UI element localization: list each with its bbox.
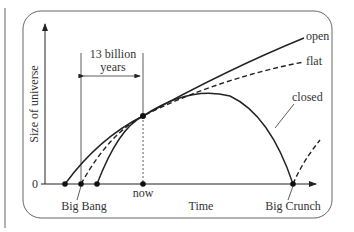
x-axis-label: Time xyxy=(189,199,214,213)
curve-label-closed: closed xyxy=(292,90,323,104)
curve-label-flat: flat xyxy=(306,54,323,68)
closed-leader-line xyxy=(275,104,294,128)
span-label-line1: 13 billion xyxy=(90,47,136,61)
now-point xyxy=(140,113,146,119)
universe-expansion-diagram: Size of universe 0 13 billion years open… xyxy=(0,0,354,232)
curve-closed-rebound xyxy=(293,140,320,184)
curve-closed xyxy=(97,93,293,184)
big-crunch-leader-line xyxy=(288,186,293,200)
big-crunch-label: Big Crunch xyxy=(265,199,321,213)
start-point-closed xyxy=(94,181,100,187)
big-bang-label: Big Bang xyxy=(61,199,107,213)
y-axis-label: Size of universe xyxy=(27,65,41,142)
now-label: now xyxy=(133,186,154,200)
big-bang-leader-line xyxy=(77,186,81,200)
start-point-open xyxy=(62,181,68,187)
curve-label-open: open xyxy=(306,29,329,43)
big-crunch-point xyxy=(290,181,296,187)
curve-flat xyxy=(81,62,304,184)
start-point-flat xyxy=(78,181,84,187)
span-label-line2: years xyxy=(100,60,126,74)
origin-label: 0 xyxy=(32,177,38,191)
